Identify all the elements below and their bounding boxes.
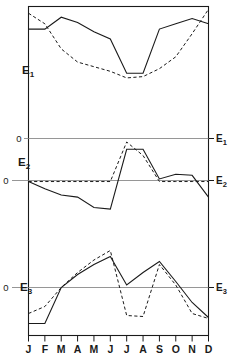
x-tick-label-10: N <box>188 343 196 355</box>
x-axis-ticks <box>12 139 214 342</box>
x-tick-label-3: A <box>74 343 82 355</box>
figure-container: JFMAMJJASOND 0 0 0 E1 E2 E3 E1 E2 <box>0 0 235 358</box>
x-axis-tick-labels: JFMAMJJASOND <box>26 343 213 355</box>
panel-label-e3: E3 <box>20 281 33 296</box>
axis-label-e1-right: E1 <box>216 133 227 147</box>
zero-label-e2: 0 <box>3 175 8 186</box>
multi-panel-chart: JFMAMJJASOND 0 0 0 E1 E2 E3 E1 E2 <box>0 0 235 358</box>
reference-lines <box>29 139 215 288</box>
panel-labels-left: E1 E2 E3 <box>18 64 35 296</box>
series-e1-solid <box>29 17 209 73</box>
series-e3-dashed <box>29 251 209 319</box>
x-tick-label-11: D <box>205 343 213 355</box>
zero-label-e1: 0 <box>16 133 21 144</box>
panel-labels-right: E1 E2 E3 <box>216 133 227 296</box>
x-tick-label-6: J <box>124 343 130 355</box>
series-e3-solid <box>29 257 209 324</box>
x-tick-label-4: M <box>90 343 99 355</box>
x-tick-label-5: J <box>107 343 113 355</box>
series-e2-solid <box>29 149 209 209</box>
series-layer <box>29 9 209 323</box>
series-e1-dashed <box>29 9 209 78</box>
axis-label-e2-right: E2 <box>216 175 227 189</box>
x-tick-label-0: J <box>26 343 32 355</box>
x-tick-label-9: O <box>172 343 180 355</box>
x-tick-label-8: S <box>156 343 163 355</box>
axis-label-e3-right: E3 <box>216 282 227 296</box>
x-tick-label-1: F <box>42 343 49 355</box>
series-e2-dashed <box>29 142 209 182</box>
x-tick-label-2: M <box>57 343 66 355</box>
zero-label-e3: 0 <box>3 282 8 293</box>
x-tick-label-7: A <box>139 343 147 355</box>
